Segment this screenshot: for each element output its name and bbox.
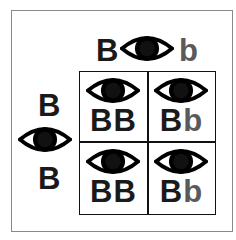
top-parent-allele-1: B [96,35,118,66]
eye-icon [120,33,174,64]
cell-r1-c1: BB [80,72,147,142]
allele: B [90,103,113,138]
allele: b [183,103,203,138]
punnett-grid: BB Bb BB Bb [79,71,216,215]
eye-icon [18,124,72,155]
genotype: Bb [148,176,215,207]
allele: B [114,103,137,138]
eye-icon [154,146,208,177]
genotype: Bb [148,105,215,136]
eye-icon [86,146,140,177]
cell-r2-c1: BB [80,143,147,213]
top-parent-allele-2: b [179,35,198,66]
genotype: BB [80,176,147,207]
left-parent-allele-1: B [38,90,60,121]
left-parent-allele-2: B [38,163,60,194]
allele: b [183,174,203,209]
eye-icon [154,75,208,106]
allele: B [160,103,183,138]
allele: B [114,174,137,209]
genotype: BB [80,105,147,136]
allele: B [160,174,183,209]
cell-r2-c2: Bb [148,143,215,213]
allele: B [90,174,113,209]
eye-icon [86,75,140,106]
cell-r1-c2: Bb [148,72,215,142]
